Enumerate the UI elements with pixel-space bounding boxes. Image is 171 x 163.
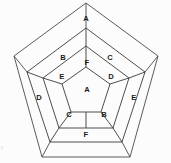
label-inner-d-right: D: [108, 72, 114, 81]
pentagon-net-svg: A B C F E D A D E C B F c: [0, 0, 171, 163]
label-ring-f-bot: F: [84, 130, 89, 139]
label-ring-d-left: D: [36, 93, 42, 102]
label-inner-e-left: E: [59, 72, 64, 81]
label-apex-a: A: [83, 14, 89, 23]
label-ring-e-right: E: [131, 93, 136, 102]
label-center-a: A: [84, 85, 90, 94]
label-inner-f-top: F: [85, 58, 90, 67]
label-inner-b-low: B: [101, 110, 107, 119]
label-inner-c-low: C: [66, 110, 72, 119]
label-ring-b-top: B: [60, 53, 66, 62]
label-ring-c-top: C: [107, 53, 113, 62]
diagram-root: A B C F E D A D E C B F c: [0, 0, 171, 163]
